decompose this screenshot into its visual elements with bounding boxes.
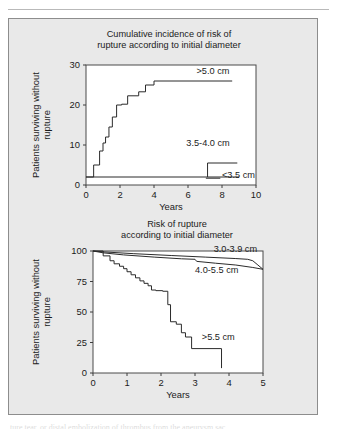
chart-bottom-svg: Risk of ruptureaccording to initial diam… bbox=[9, 215, 317, 411]
y-tick-label: 100 bbox=[71, 245, 87, 256]
chart-cumulative-incidence: Cumulative incidence of risk ofrupture a… bbox=[9, 23, 317, 215]
x-tick-label: 2 bbox=[117, 189, 122, 200]
y-axis-label-line2: rupture bbox=[41, 110, 52, 140]
x-tick-label: 2 bbox=[158, 377, 163, 388]
top-divider-rule bbox=[8, 9, 329, 10]
x-tick-label: 4 bbox=[151, 189, 156, 200]
series-annotation: 3.0-3.9 cm bbox=[214, 244, 258, 254]
y-tick-label: 10 bbox=[70, 139, 80, 150]
y-tick-label: 0 bbox=[75, 179, 80, 190]
series-annotation: >5.5 cm bbox=[202, 332, 235, 342]
caption-fragment: ture tear, or distal embolization of thr… bbox=[10, 423, 320, 429]
series-annotation: 4.0-5.5 cm bbox=[195, 265, 239, 275]
chart-title-line1: Cumulative incidence of risk of bbox=[107, 29, 232, 39]
chart-title-line2: according to initial diameter bbox=[121, 230, 233, 240]
x-axis-label: Years bbox=[166, 389, 190, 400]
x-tick-label: 1 bbox=[124, 377, 129, 388]
series-annotation: >5.0 cm bbox=[197, 66, 230, 76]
chart-title-line1: Risk of rupture bbox=[147, 219, 207, 229]
y-tick-label: 75 bbox=[77, 276, 87, 287]
x-tick-label: 10 bbox=[251, 189, 261, 200]
x-tick-label: 6 bbox=[185, 189, 190, 200]
y-axis-label-line2: rupture bbox=[41, 297, 52, 327]
y-axis-label-line1: Patients surviving without bbox=[30, 259, 41, 365]
x-axis-label: Years bbox=[159, 201, 183, 212]
y-tick-label: 20 bbox=[70, 99, 80, 110]
y-tick-label: 25 bbox=[77, 337, 87, 348]
y-tick-label: 30 bbox=[70, 59, 80, 70]
x-tick-label: 0 bbox=[83, 189, 88, 200]
x-tick-label: 8 bbox=[219, 189, 224, 200]
chart-risk-of-rupture: Risk of ruptureaccording to initial diam… bbox=[9, 215, 317, 411]
x-tick-label: 5 bbox=[260, 377, 265, 388]
chart-title-line2: rupture according to initial diameter bbox=[97, 40, 241, 50]
x-tick-label: 4 bbox=[226, 377, 231, 388]
y-tick-label: 0 bbox=[82, 367, 87, 378]
y-axis-label-line1: Patients surviving without bbox=[30, 72, 41, 178]
figure-root: Cumulative incidence of risk ofrupture a… bbox=[0, 0, 337, 431]
figure-panel: Cumulative incidence of risk ofrupture a… bbox=[8, 18, 318, 415]
x-tick-label: 0 bbox=[90, 377, 95, 388]
series-annotation: 3.5-4.0 cm bbox=[186, 138, 230, 148]
y-tick-label: 50 bbox=[77, 306, 87, 317]
series-annotation: <3.5 cm bbox=[222, 170, 255, 180]
plot-area bbox=[86, 65, 256, 185]
x-tick-label: 3 bbox=[192, 377, 197, 388]
chart-top-svg: Cumulative incidence of risk ofrupture a… bbox=[9, 23, 317, 215]
